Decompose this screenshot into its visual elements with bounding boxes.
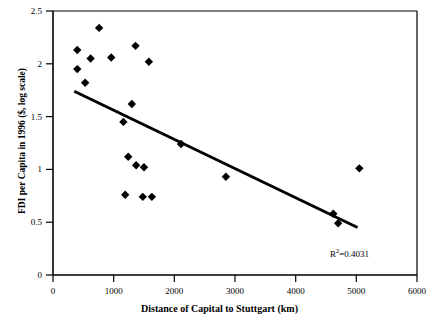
x-axis-title: Distance of Capital to Stuttgart (km) <box>0 303 439 314</box>
data-points-group <box>73 24 364 228</box>
data-point-marker <box>73 65 81 73</box>
trendline-segment <box>74 91 357 227</box>
y-tick-label: 0 <box>14 270 42 280</box>
r2-value: =0.4031 <box>339 249 369 259</box>
data-point-marker <box>131 42 139 50</box>
y-tick-label: 2.5 <box>14 6 42 16</box>
data-point-marker <box>140 163 148 171</box>
data-point-marker <box>139 193 147 201</box>
x-tick-label: 2000 <box>165 286 183 296</box>
x-tick-label: 4000 <box>287 286 305 296</box>
x-tick-label: 5000 <box>347 286 365 296</box>
data-point-marker <box>121 191 129 199</box>
plot-canvas <box>0 0 439 328</box>
plot-frame <box>53 11 417 275</box>
data-point-marker <box>128 100 136 108</box>
data-point-marker <box>148 193 156 201</box>
x-tick-label: 0 <box>51 286 56 296</box>
data-point-marker <box>132 161 140 169</box>
data-point-marker <box>124 153 132 161</box>
x-tick-label: 3000 <box>226 286 244 296</box>
data-point-marker <box>119 118 127 126</box>
data-point-marker <box>81 79 89 87</box>
data-point-marker <box>86 54 94 62</box>
scatter-chart-figure: 00.511.522.5 0100020003000400050006000 F… <box>0 0 439 328</box>
y-axis-ticks <box>46 11 53 275</box>
x-tick-label: 6000 <box>408 286 426 296</box>
data-point-marker <box>145 57 153 65</box>
y-axis-title: FDI per Capita in 1996 ($, log scale) <box>17 41 27 241</box>
r-squared-annotation: R2=0.4031 <box>330 247 369 259</box>
regression-trendline <box>74 91 357 227</box>
data-point-marker <box>107 53 115 61</box>
x-tick-label: 1000 <box>105 286 123 296</box>
x-axis-ticks <box>53 275 417 282</box>
data-point-marker <box>355 164 363 172</box>
data-point-marker <box>73 46 81 54</box>
data-point-marker <box>95 24 103 32</box>
data-point-marker <box>222 173 230 181</box>
